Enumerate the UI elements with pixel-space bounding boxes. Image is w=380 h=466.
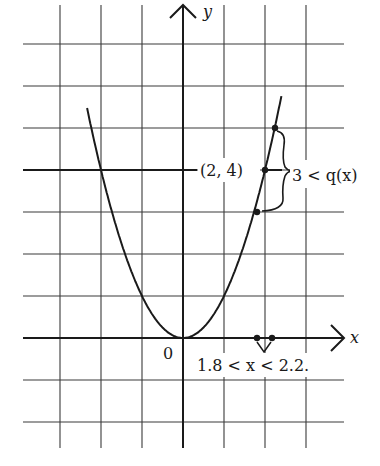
- parabola-curve: [87, 96, 281, 338]
- x-axis: x: [23, 325, 359, 351]
- point-2-4-dot: [262, 167, 268, 173]
- y-axis-label: y: [202, 2, 213, 21]
- x-interval-right-dot: [269, 335, 275, 341]
- graph-figure: x y 0 (2, 4) 3 < q(x) 1.8 < x < 2.2.: [0, 0, 380, 466]
- y-interval-label: 3 < q(x): [292, 166, 358, 185]
- y-axis: y: [170, 2, 213, 448]
- x-interval-label: 1.8 < x < 2.2.: [197, 356, 309, 375]
- x-axis-label: x: [350, 328, 359, 347]
- x-interval-left-dot: [254, 335, 260, 341]
- point-lower-dot: [254, 209, 260, 215]
- origin-label: 0: [163, 344, 173, 363]
- point-2-4-label: (2, 4): [200, 161, 243, 180]
- x-interval-marker-icon: [257, 342, 271, 352]
